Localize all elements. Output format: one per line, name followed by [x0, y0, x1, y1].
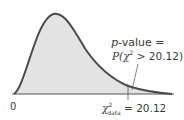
- pvalue-label-line1: p-value =: [111, 37, 164, 48]
- statistic-label: χ2data = 20.12: [102, 102, 166, 116]
- chi-exponent-2: 2: [108, 101, 112, 108]
- pvalue-pointer: [132, 64, 138, 90]
- data-subscript: data: [107, 109, 121, 116]
- gt-value: > 20.12): [133, 50, 183, 62]
- pvalue-text: -value =: [118, 36, 164, 49]
- p-letter: p: [111, 36, 118, 49]
- P-open: P(: [112, 50, 123, 62]
- zero-tick-label: 0: [10, 102, 16, 112]
- pvalue-label-line2: P(χ2 > 20.12): [112, 50, 183, 61]
- eq-value: = 20.12: [121, 102, 167, 114]
